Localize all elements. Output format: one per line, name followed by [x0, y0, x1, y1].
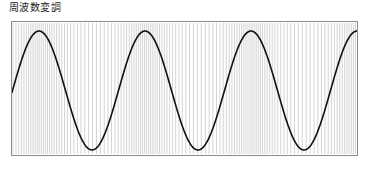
plot-frame: [11, 21, 358, 156]
modulating-sine-curve: [12, 31, 357, 150]
figure-root: 周波数変調: [0, 0, 371, 177]
waveform-plot: [12, 22, 357, 155]
figure-caption: 周波数変調: [9, 1, 61, 15]
